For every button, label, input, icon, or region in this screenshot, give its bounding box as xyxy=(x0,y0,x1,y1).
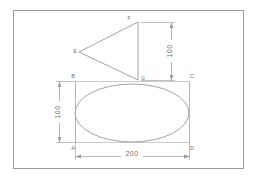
triangle-shape xyxy=(79,22,138,80)
corner-label-a: A xyxy=(71,145,75,151)
width-dimension-group: 200 xyxy=(76,143,190,160)
technical-drawing-canvas: 200 100 100 xyxy=(0,0,257,179)
vertex-label-e: E xyxy=(73,49,76,54)
height-left-arrow-bottom xyxy=(58,137,62,143)
drawing-border xyxy=(14,11,244,169)
vertex-label-f: F xyxy=(128,16,131,21)
corner-label-c: C xyxy=(190,73,194,79)
ellipse-shape xyxy=(75,84,189,142)
ellipse-height-dimension-group: 100 xyxy=(54,82,76,143)
triangle-height-dimension-group: 100 xyxy=(141,23,176,81)
width-dimension-value: 200 xyxy=(126,150,139,157)
width-arrow-right xyxy=(184,155,190,159)
corner-label-b: B xyxy=(71,73,75,79)
height-left-arrow-top xyxy=(58,82,62,88)
height-right-arrow-bottom xyxy=(170,75,174,81)
width-arrow-left xyxy=(76,155,82,159)
drawing-viewport: 200 100 100 xyxy=(0,0,257,179)
ellipse-height-dimension-value: 100 xyxy=(54,106,61,119)
vertex-label-g: G xyxy=(141,76,145,81)
height-right-arrow-top xyxy=(170,23,174,29)
corner-label-d: D xyxy=(190,145,194,151)
triangle-height-dimension-value: 100 xyxy=(166,45,173,58)
